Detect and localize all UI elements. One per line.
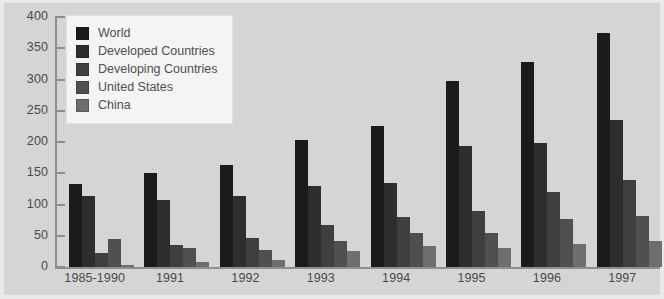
bar: [597, 33, 610, 267]
bar-group: [295, 17, 360, 267]
bar-chart: 050100150200250300350400 1985-1990199119…: [0, 0, 664, 299]
bar: [233, 196, 246, 267]
bar: [534, 143, 547, 267]
y-axis-tick-label: 400: [4, 10, 48, 22]
y-axis-tick-label: 150: [4, 166, 48, 178]
bar-group: [521, 17, 586, 267]
x-axis-tick-label: 1992: [208, 271, 283, 285]
legend-item-label: Developed Countries: [98, 45, 215, 58]
bar: [196, 262, 209, 267]
legend-item-label: World: [98, 27, 130, 40]
bar: [410, 233, 423, 267]
legend-swatch-icon: [76, 45, 89, 58]
bar: [157, 200, 170, 268]
x-axis-tick-label: 1985-1990: [57, 271, 132, 285]
bar: [610, 120, 623, 267]
y-axis-tick-label: 250: [4, 104, 48, 116]
bar: [246, 238, 259, 267]
bar: [423, 246, 436, 267]
bar: [446, 81, 459, 267]
x-axis-tick-label: 1995: [434, 271, 509, 285]
bar: [498, 248, 511, 267]
legend-item[interactable]: United States: [76, 79, 218, 96]
bar: [121, 265, 134, 267]
bar: [636, 216, 649, 267]
bar: [295, 140, 308, 268]
bar: [334, 241, 347, 267]
bar: [649, 241, 662, 267]
bar: [623, 180, 636, 267]
bar: [170, 245, 183, 267]
bar: [95, 253, 108, 267]
x-axis-tick-label: 1994: [359, 271, 434, 285]
bar: [459, 146, 472, 267]
x-axis-line: [55, 267, 660, 269]
chart-plate: 050100150200250300350400 1985-1990199119…: [4, 3, 660, 295]
y-axis-tick-label: 100: [4, 198, 48, 210]
bar: [397, 217, 410, 267]
bar: [472, 211, 485, 267]
bar: [547, 192, 560, 267]
legend-item[interactable]: Developing Countries: [76, 61, 218, 78]
legend-item-label: China: [98, 99, 131, 112]
y-axis-tick-label: 200: [4, 135, 48, 147]
bar: [521, 62, 534, 267]
legend-item-label: United States: [98, 81, 173, 94]
bar: [272, 260, 285, 268]
legend-item[interactable]: World: [76, 25, 218, 42]
legend-swatch-icon: [76, 99, 89, 112]
legend-item[interactable]: China: [76, 97, 218, 114]
bar: [485, 233, 498, 267]
legend-swatch-icon: [76, 63, 89, 76]
bar: [220, 165, 233, 267]
y-axis-tick-label: 0: [4, 260, 48, 272]
x-axis-tick-label: 1993: [283, 271, 358, 285]
bar: [321, 225, 334, 267]
bar: [384, 183, 397, 267]
y-axis-tick-label: 300: [4, 73, 48, 85]
legend-item[interactable]: Developed Countries: [76, 43, 218, 60]
x-axis-tick-label: 1997: [585, 271, 660, 285]
bar: [573, 244, 586, 267]
bar: [308, 186, 321, 267]
bar: [82, 196, 95, 267]
y-axis-tick-label: 350: [4, 41, 48, 53]
x-axis-tick-label: 1991: [132, 271, 207, 285]
legend-swatch-icon: [76, 27, 89, 40]
x-axis-tick-label: 1996: [509, 271, 584, 285]
bar: [259, 250, 272, 268]
bar: [108, 239, 121, 267]
bar-group: [371, 17, 436, 267]
bar: [183, 248, 196, 267]
legend-swatch-icon: [76, 81, 89, 94]
y-axis-tick-label: 50: [4, 229, 48, 241]
bar: [347, 251, 360, 267]
bar: [69, 184, 82, 267]
bar-group: [446, 17, 511, 267]
bar: [371, 126, 384, 267]
bar: [560, 219, 573, 267]
bar-group: [597, 17, 662, 267]
legend-item-label: Developing Countries: [98, 63, 218, 76]
bar: [144, 173, 157, 267]
legend: WorldDeveloped CountriesDeveloping Count…: [66, 15, 233, 124]
